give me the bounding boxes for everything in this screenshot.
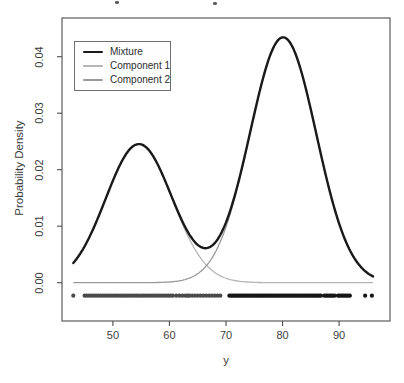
y-tick-label: 0.04 — [33, 43, 47, 71]
data-point — [363, 294, 367, 298]
x-tick-label: 70 — [218, 329, 234, 341]
y-tick-label: 0.01 — [33, 212, 47, 240]
legend-box: Mixture Component 1 Component 2 — [74, 41, 171, 91]
x-axis-title: y — [216, 354, 236, 366]
legend-label: Mixture — [110, 46, 143, 58]
rug-points — [71, 294, 374, 298]
mixture-density-figure: Probability Density y 5060708090 0.000.0… — [0, 0, 404, 383]
legend-entry-mixture: Mixture — [83, 46, 170, 58]
mixture-line-swatch — [83, 51, 103, 53]
legend-entry-component-1: Component 1 — [83, 60, 170, 72]
cropped-title-remnant — [213, 2, 217, 5]
y-axis-title: Probability Density — [13, 108, 25, 228]
data-point — [71, 294, 75, 298]
component-1-line-swatch — [83, 65, 103, 66]
data-point — [218, 294, 222, 298]
data-point — [370, 294, 374, 298]
component-2-line-swatch — [83, 79, 103, 80]
cropped-title-remnant — [115, 1, 119, 4]
legend-entry-component-2: Component 2 — [83, 74, 170, 86]
x-tick-label: 80 — [275, 329, 291, 341]
legend-label: Component 2 — [110, 74, 170, 86]
component-1-curve — [73, 144, 373, 283]
x-tick-label: 60 — [161, 329, 177, 341]
legend-label: Component 1 — [110, 60, 170, 72]
x-tick-label: 50 — [105, 329, 121, 341]
x-tick-label: 90 — [331, 329, 347, 341]
y-tick-label: 0.00 — [33, 269, 47, 297]
y-tick-label: 0.03 — [33, 99, 47, 127]
chart-canvas — [0, 0, 404, 383]
data-point — [348, 294, 352, 298]
y-tick-label: 0.02 — [33, 156, 47, 184]
